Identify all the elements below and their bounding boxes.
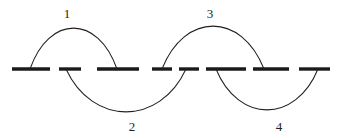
arc-label-1: 1 xyxy=(64,6,71,21)
arc-3 xyxy=(162,26,264,69)
arc-4 xyxy=(216,69,318,110)
chord-diagram-canvas: 1234 xyxy=(0,0,339,138)
arc-1 xyxy=(30,28,117,69)
arc-label-2: 2 xyxy=(129,119,136,134)
arc-label-group: 1234 xyxy=(64,6,283,134)
arc-label-3: 3 xyxy=(207,6,214,21)
arc-2 xyxy=(66,69,186,112)
chord-diagram-figure: 1234 xyxy=(0,0,339,138)
arc-label-4: 4 xyxy=(276,119,283,134)
